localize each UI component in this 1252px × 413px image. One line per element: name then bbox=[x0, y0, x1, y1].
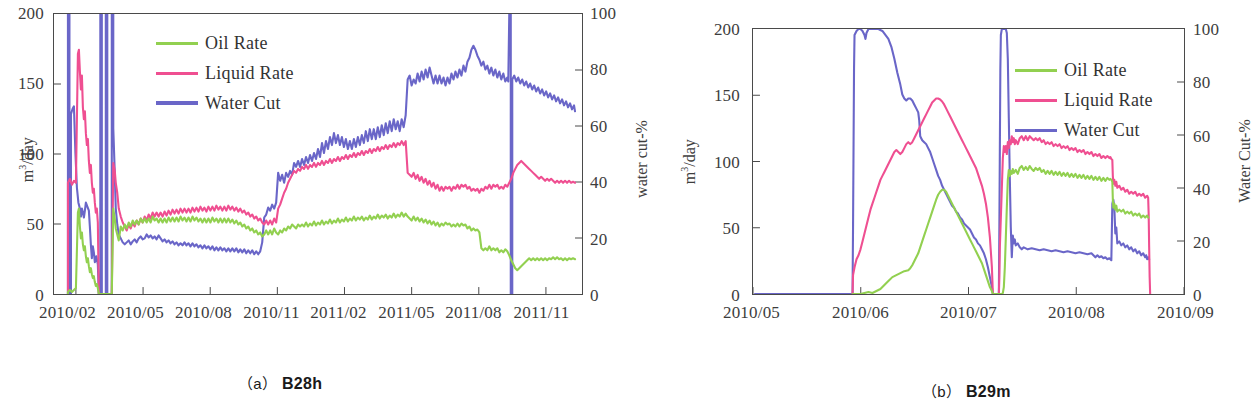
x-tick-label-b-1: 2010/06 bbox=[813, 304, 908, 321]
x-tick-label-b-2: 2010/07 bbox=[921, 304, 1016, 321]
legend-b29m: Oil Rate Liquid Rate Water Cut bbox=[1015, 55, 1153, 145]
plot-area-b28h[interactable] bbox=[53, 13, 583, 295]
legend-swatch-oil-rate-icon bbox=[156, 42, 198, 45]
caption-index-b: （b） bbox=[922, 383, 961, 400]
legend-swatch-oil-rate-icon-b bbox=[1015, 69, 1057, 72]
caption-label-a: B28h bbox=[282, 375, 322, 392]
legend-label-oil-rate: Oil Rate bbox=[205, 33, 268, 54]
caption-label-b: B29m bbox=[966, 383, 1011, 400]
y-left-axis-title-suffix: /day bbox=[19, 137, 36, 165]
y-right-axis-title-b: Water Cut-% bbox=[1236, 101, 1252, 221]
y-right-tick-40: 40 bbox=[590, 174, 636, 191]
legend-item-water-cut[interactable]: Water Cut bbox=[156, 88, 294, 118]
y-right-tick-60: 60 bbox=[590, 118, 636, 135]
y-left-ticks-b28h bbox=[54, 84, 61, 224]
series-canvas-b28h bbox=[54, 14, 582, 294]
chart-b29m: 200 150 100 50 0 100 80 60 40 20 0 m3/da… bbox=[640, 0, 1252, 340]
legend-label-water-cut-b: Water Cut bbox=[1064, 120, 1140, 141]
caption-index-a: （a） bbox=[238, 375, 277, 392]
legend-item-oil-rate[interactable]: Oil Rate bbox=[156, 28, 294, 58]
series-line-liquid-rate-b28h bbox=[68, 50, 575, 294]
y-left-axis-title-exponent-b: 3 bbox=[679, 167, 690, 172]
y-right-tick-80: 80 bbox=[590, 61, 636, 78]
y-left-tick-50-b: 50 bbox=[694, 220, 740, 237]
y-right-tick-20-b: 20 bbox=[1193, 234, 1239, 251]
y-left-tick-50: 50 bbox=[0, 216, 44, 233]
caption-b29m: （b） B29m bbox=[922, 380, 1011, 401]
legend-swatch-water-cut-icon bbox=[156, 101, 198, 105]
y-left-tick-200: 200 bbox=[0, 5, 44, 22]
legend-swatch-liquid-rate-icon bbox=[156, 72, 198, 75]
y-left-axis-title-prefix-b: m bbox=[681, 172, 698, 184]
series-line-oil-rate-b28h bbox=[68, 209, 575, 294]
legend-item-oil-rate-b[interactable]: Oil Rate bbox=[1015, 55, 1153, 85]
y-left-tick-0-b: 0 bbox=[694, 287, 740, 304]
y-right-tick-20: 20 bbox=[590, 231, 636, 248]
y-left-tick-0: 0 bbox=[0, 287, 44, 304]
legend-item-liquid-rate[interactable]: Liquid Rate bbox=[156, 58, 294, 88]
chart-panel-b29m: 200 150 100 50 0 100 80 60 40 20 0 m3/da… bbox=[640, 0, 1252, 413]
y-left-tick-100-b: 100 bbox=[694, 154, 740, 171]
legend-b28h: Oil Rate Liquid Rate Water Cut bbox=[156, 28, 294, 118]
y-left-axis-title-b: m3/day bbox=[679, 127, 698, 197]
x-ticks-b29m bbox=[753, 287, 1184, 294]
y-right-tick-60-b: 60 bbox=[1193, 128, 1239, 145]
y-left-tick-200-b: 200 bbox=[694, 21, 740, 38]
y-left-axis-title: m3/day bbox=[17, 125, 36, 195]
figure-container: 200 150 100 50 0 100 80 60 40 20 0 m3/da… bbox=[0, 0, 1252, 413]
chart-panel-b28h: 200 150 100 50 0 100 80 60 40 20 0 m3/da… bbox=[0, 0, 640, 413]
y-left-tick-150: 150 bbox=[0, 75, 44, 92]
legend-item-water-cut-b[interactable]: Water Cut bbox=[1015, 115, 1153, 145]
y-right-tick-100: 100 bbox=[590, 5, 636, 22]
y-left-axis-title-exponent: 3 bbox=[17, 165, 28, 170]
y-left-axis-title-suffix-b: /day bbox=[681, 139, 698, 167]
y-right-ticks-b29m bbox=[1177, 82, 1184, 241]
x-tick-label-b-4: 2010/09 bbox=[1138, 304, 1233, 321]
caption-b28h: （a） B28h bbox=[238, 372, 322, 393]
y-right-tick-40-b: 40 bbox=[1193, 181, 1239, 198]
y-right-tick-0: 0 bbox=[590, 287, 636, 304]
chart-b28h: 200 150 100 50 0 100 80 60 40 20 0 m3/da… bbox=[0, 0, 640, 340]
x-ticks-b28h bbox=[76, 287, 546, 294]
legend-label-oil-rate-b: Oil Rate bbox=[1064, 60, 1127, 81]
legend-swatch-water-cut-icon-b bbox=[1015, 129, 1057, 132]
y-left-ticks-b29m bbox=[753, 95, 760, 228]
legend-swatch-liquid-rate-icon-b bbox=[1015, 99, 1057, 102]
x-tick-label-b-3: 2010/08 bbox=[1029, 304, 1124, 321]
y-left-tick-150-b: 150 bbox=[694, 87, 740, 104]
x-tick-label-7: 2011/11 bbox=[494, 304, 589, 321]
y-right-tick-80-b: 80 bbox=[1193, 74, 1239, 91]
y-right-tick-100-b: 100 bbox=[1193, 21, 1239, 38]
x-tick-label-b-0: 2010/05 bbox=[704, 304, 799, 321]
legend-label-liquid-rate: Liquid Rate bbox=[205, 63, 294, 84]
legend-item-liquid-rate-b[interactable]: Liquid Rate bbox=[1015, 85, 1153, 115]
y-left-axis-title-prefix: m bbox=[19, 170, 36, 182]
legend-label-water-cut: Water Cut bbox=[205, 93, 281, 114]
legend-label-liquid-rate-b: Liquid Rate bbox=[1064, 90, 1153, 111]
y-right-ticks-b28h bbox=[575, 70, 582, 238]
y-right-tick-0-b: 0 bbox=[1193, 287, 1239, 304]
